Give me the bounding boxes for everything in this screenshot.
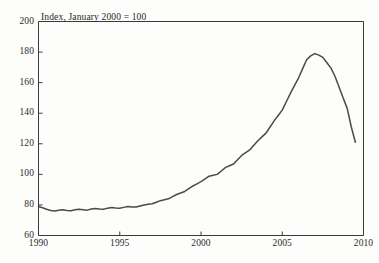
- y-tick-label: 140: [2, 107, 34, 117]
- chart-figure: Index, January 2000 = 100 60801001201401…: [0, 0, 379, 263]
- x-tick-label: 1995: [100, 238, 140, 248]
- data-series-line: [39, 54, 356, 211]
- chart-plot-area: [0, 0, 379, 263]
- y-tick-label: 200: [2, 16, 34, 26]
- data-series-group: [39, 54, 356, 211]
- y-tick-label: 180: [2, 46, 34, 56]
- y-tick-label: 120: [2, 138, 34, 148]
- x-axis-ticks: [39, 232, 364, 236]
- x-tick-label: 1990: [19, 238, 59, 248]
- y-tick-label: 100: [2, 168, 34, 178]
- x-tick-label: 2005: [262, 238, 302, 248]
- x-tick-label: 2010: [344, 238, 379, 248]
- y-tick-label: 160: [2, 77, 34, 87]
- chart-title: Index, January 2000 = 100: [41, 12, 146, 22]
- y-tick-label: 80: [2, 199, 34, 209]
- y-axis-ticks: [39, 52, 43, 205]
- x-tick-label: 2000: [181, 238, 221, 248]
